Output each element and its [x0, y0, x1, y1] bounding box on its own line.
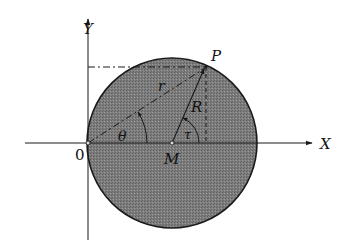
- label-tau: τ: [184, 127, 192, 142]
- label-y-axis: Y: [83, 20, 95, 38]
- label-point-M: M: [163, 150, 180, 168]
- point-P: [205, 66, 208, 69]
- label-point-P: P: [210, 47, 222, 65]
- point-O: [86, 141, 90, 145]
- label-R: R: [190, 98, 202, 116]
- polar-circle-diagram: Y X 0 P M r R θ τ: [0, 0, 350, 249]
- point-M: [170, 141, 174, 145]
- label-origin: 0: [75, 146, 85, 164]
- label-theta: θ: [118, 128, 127, 144]
- label-x-axis: X: [319, 135, 332, 153]
